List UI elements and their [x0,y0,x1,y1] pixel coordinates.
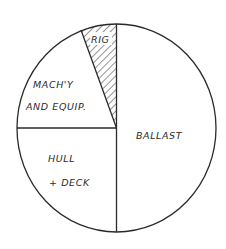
pie-chart: BALLAST HULL + DECK MACH'Y AND EQUIP. RI… [0,0,226,249]
label-ballast: BALLAST [136,130,183,141]
label-mach-line1: MACH'Y [33,79,74,90]
label-rig: RIG [91,34,110,45]
label-hull-line2: + DECK [49,177,90,188]
label-hull-line1: HULL [48,153,75,164]
label-mach-line2: AND EQUIP. [25,101,87,112]
